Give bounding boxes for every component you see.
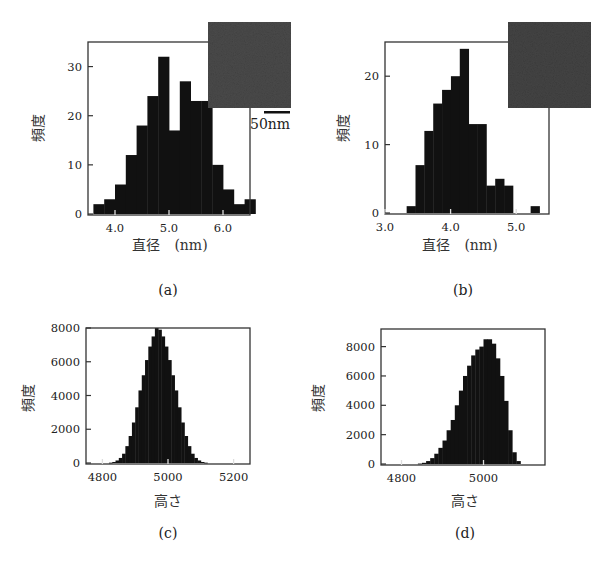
histogram-bar [171,375,175,463]
y-axis-label-b: 頻度 [335,114,351,142]
histogram-bar [416,165,425,213]
histogram-bar [158,57,169,214]
histogram-bar [142,375,146,463]
x-axis-label-d: 高さ [451,493,479,509]
x-axis-label-b: 直径 (nm) [422,237,497,253]
histogram-bar [516,461,521,464]
histogram-bar [500,376,505,464]
histogram-bar [201,462,205,463]
histogram-bar [181,423,185,464]
micrograph-inset-b [508,22,591,108]
panel-d: 4800500002000400060008000 高さ 頻度 (d) [310,329,545,541]
histogram-bar [152,336,156,463]
histogram-bar [126,155,137,214]
x-axis-label-a: 直径 (nm) [132,237,207,253]
histogram-bar [486,186,495,213]
histogram-bar [188,446,192,463]
y-tick-label: 0 [75,207,82,221]
figure-canvas: 4.05.06.00102030 50nm 直径 (nm) 頻度 (a) 3.0… [0,0,610,561]
histogram-bar [112,462,116,463]
histogram-bar [132,423,136,464]
y-tick-label: 8000 [51,321,80,335]
histogram-bar [475,350,480,464]
histogram-bar [430,458,435,464]
x-tick-label: 4800 [88,470,117,484]
histogram-bar [531,206,540,213]
x-tick-label: 3.0 [376,220,394,234]
scale-bar-label-a: 50nm [250,116,290,132]
histogram-bar [223,189,234,214]
histogram-bar [459,391,464,464]
histogram-bar [175,390,179,463]
y-tick-label: 2000 [51,422,80,436]
histogram-bar [460,49,469,213]
histogram-bar [191,454,195,463]
histogram-bar [434,454,439,464]
histogram-bar [161,336,165,463]
histogram-bar [191,101,202,214]
histogram-bar [93,204,104,214]
panel-label-a: (a) [158,282,177,298]
y-tick-label: 6000 [346,369,375,383]
histogram-bar [194,458,198,463]
histogram-bar [116,460,120,463]
figure: 4.05.06.00102030 50nm 直径 (nm) 頻度 (a) 3.0… [0,0,610,561]
panel-b: 3.04.05.001020 直径 (nm) 頻度 (b) [335,22,591,298]
histogram-bar [479,347,484,464]
histogram-bar [168,360,172,463]
y-axis-label-c: 頻度 [20,384,36,412]
histogram-bar [198,460,202,463]
histogram-bar [165,347,169,463]
panel-c: 48005000520002000400060008000 高さ 頻度 (c) [20,321,250,541]
x-tick-label: 5200 [219,470,248,484]
histogram-bar [443,441,448,464]
histogram-bar [201,101,212,214]
x-tick-label: 5.0 [507,220,525,234]
scale-bar-a [264,111,290,114]
histogram-bar [504,401,509,464]
panel-label-d: (d) [455,525,475,541]
y-tick-label: 6000 [51,355,80,369]
micrograph-inset-a [208,22,291,108]
x-tick-label: 5000 [469,471,498,485]
histogram-bar [138,390,142,463]
histogram-bar [426,461,431,464]
histogram-bar [463,376,468,464]
histogram-bar [147,96,158,214]
y-tick-label: 0 [372,206,379,220]
histogram-bar [433,104,442,213]
histogram-bar [155,328,159,463]
y-tick-label: 0 [368,457,375,471]
y-tick-label: 8000 [346,340,375,354]
y-tick-label: 4000 [51,389,80,403]
y-tick-label: 10 [67,158,82,172]
x-axis-label-c: 高さ [154,493,182,509]
y-tick-label: 10 [364,138,379,152]
histogram-bar [418,464,423,465]
histogram-bar [125,446,129,463]
histogram-bar [407,206,416,213]
histogram-bar [119,458,123,463]
histogram-bar [204,463,208,464]
panel-label-b: (b) [453,282,473,298]
histogram-bar [455,405,460,464]
x-tick-label: 4800 [387,471,416,485]
x-tick-label: 5.0 [160,221,178,235]
x-tick-label: 4.0 [441,220,459,234]
histogram-bar [442,90,451,213]
histogram-bar [115,185,126,214]
histogram-bar [129,436,133,463]
histogram-bar [145,360,149,463]
x-tick-label: 6.0 [214,221,232,235]
histogram-bar [137,126,148,214]
histogram-bar [488,339,493,464]
histogram-bar [504,186,513,213]
y-tick-label: 2000 [346,428,375,442]
histogram-bar [451,76,460,213]
y-axis-label-a: 頻度 [30,114,46,142]
x-tick-label: 4.0 [106,221,124,235]
histogram-bar [122,454,126,463]
histogram-bar [512,452,517,464]
histogram-bar [148,347,152,463]
histogram-bar [234,204,245,214]
